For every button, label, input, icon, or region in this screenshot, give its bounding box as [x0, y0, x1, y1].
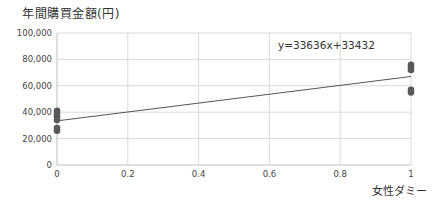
x-tick-label: 0.4 [192, 169, 206, 179]
y-tick-labels: 020,00040,00060,00080,000100,000 [17, 28, 52, 170]
y-tick-label: 80,000 [22, 54, 52, 64]
x-tick-labels: 00.20.40.60.81 [54, 169, 413, 179]
y-tick-label: 0 [47, 160, 52, 170]
trendline-equation: y=33636x+33432 [278, 39, 375, 51]
y-tick-label: 60,000 [22, 81, 52, 91]
trendline-group [57, 76, 411, 120]
data-point [408, 67, 415, 74]
y-tick-label: 100,000 [17, 28, 52, 38]
y-tick-label: 20,000 [22, 134, 52, 144]
x-tick-label: 0.6 [263, 169, 277, 179]
x-tick-label: 0 [54, 169, 59, 179]
x-tick-label: 0.2 [121, 169, 135, 179]
data-point [54, 117, 61, 124]
x-tick-label: 0.8 [333, 169, 347, 179]
trendline [57, 76, 411, 120]
scatter-chart: 020,00040,00060,00080,000100,000 00.20.4… [0, 0, 445, 204]
x-tick-label: 1 [408, 169, 413, 179]
data-point [408, 89, 415, 96]
data-point [54, 127, 61, 134]
y-tick-label: 40,000 [22, 107, 52, 117]
data-points [54, 61, 415, 134]
